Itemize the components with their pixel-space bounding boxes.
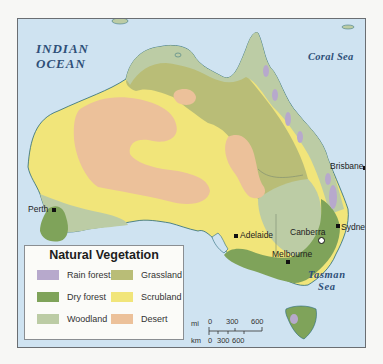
- legend-label: Grassland: [141, 270, 182, 280]
- city-marker-adelaide[interactable]: [234, 234, 238, 238]
- city-label-brisbane[interactable]: Brisbane: [330, 161, 364, 171]
- scrubland-swatch: [111, 292, 133, 302]
- legend-item-scrubland: Scrubland: [111, 290, 182, 304]
- scale-mi-tick-600: 600: [251, 317, 264, 326]
- indian-ocean-line2: OCEAN: [36, 56, 89, 71]
- city-label-perth[interactable]: Perth: [28, 204, 48, 214]
- legend-item-desert: Desert: [111, 312, 168, 326]
- city-marker-perth[interactable]: [52, 208, 56, 212]
- indian-ocean-line1: INDIAN: [36, 41, 89, 56]
- capital-marker-canberra[interactable]: [318, 237, 325, 244]
- city-marker-melbourne[interactable]: [286, 260, 290, 264]
- tasman-line2: Sea: [308, 281, 346, 293]
- grassland-swatch: [111, 270, 133, 280]
- city-marker-sydney[interactable]: [336, 224, 340, 228]
- legend-item-rain-forest: Rain forest: [37, 268, 111, 282]
- legend-label: Desert: [141, 314, 168, 324]
- scale-km-tick-0: 0: [208, 336, 212, 345]
- tasman-line1: Tasman: [308, 269, 346, 281]
- indian-ocean-label: INDIAN OCEAN: [36, 41, 89, 71]
- scale-km-tick-300: 300: [217, 336, 230, 345]
- scale-line: [208, 326, 268, 336]
- legend-label: Woodland: [67, 314, 107, 324]
- city-marker-brisbane[interactable]: [363, 166, 366, 170]
- scale-mi-label: mi: [191, 319, 199, 328]
- tasman-sea-label: Tasman Sea: [308, 269, 346, 293]
- city-label-melbourne[interactable]: Melbourne: [272, 249, 312, 259]
- scale-mi-tick-0: 0: [208, 317, 212, 326]
- city-label-sydney[interactable]: Sydney: [341, 222, 366, 232]
- legend-label: Scrubland: [141, 292, 182, 302]
- woodland-swatch: [37, 314, 59, 324]
- legend: Natural Vegetation Rain forest Dry fores…: [24, 245, 184, 340]
- coral-sea-label: Coral Sea: [308, 49, 354, 64]
- scale-mi-tick-300: 300: [226, 317, 239, 326]
- legend-title: Natural Vegetation: [25, 248, 183, 262]
- city-label-adelaide[interactable]: Adelaide: [240, 230, 273, 240]
- legend-item-grassland: Grassland: [111, 268, 182, 282]
- city-label-canberra[interactable]: Canberra: [290, 227, 325, 237]
- tasmania: [286, 306, 317, 339]
- map-frame: INDIAN OCEAN Coral Sea Tasman Sea Perth …: [17, 18, 366, 348]
- rain-forest-swatch: [37, 270, 59, 280]
- scale-km-label: km: [191, 336, 201, 345]
- dry-forest-swatch: [37, 292, 59, 302]
- legend-label: Dry forest: [67, 292, 106, 302]
- legend-item-dry-forest: Dry forest: [37, 290, 106, 304]
- scale-km-tick-600: 600: [232, 336, 245, 345]
- legend-item-woodland: Woodland: [37, 312, 107, 326]
- desert-swatch: [111, 314, 133, 324]
- legend-label: Rain forest: [67, 270, 111, 280]
